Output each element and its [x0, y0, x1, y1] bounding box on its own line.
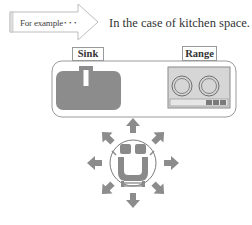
kitchen-diagram — [0, 0, 252, 225]
robot-mobility-icon — [87, 118, 179, 208]
range-label: Range — [182, 46, 217, 61]
page-heading: In the case of kitchen space. — [109, 16, 250, 31]
sink-label: Sink — [72, 47, 104, 61]
example-arrow-label: For example･･･ — [20, 16, 77, 29]
sink-icon — [56, 66, 121, 110]
range-icon — [168, 67, 230, 108]
